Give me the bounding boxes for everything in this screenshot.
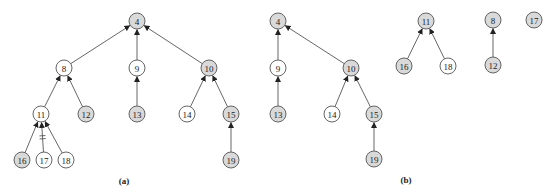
node-label: 4 (276, 17, 281, 27)
node-label: 12 (489, 61, 498, 71)
node-label: 15 (227, 110, 237, 120)
node-label: 14 (328, 110, 338, 120)
node-label: 8 (491, 16, 496, 26)
edge-8-to-4 (71, 26, 130, 64)
node-17: 17 (36, 152, 52, 168)
panel-label-a: (a) (119, 176, 130, 186)
node-17: 17 (526, 12, 542, 28)
node-label: 4 (135, 17, 140, 27)
node-16: 16 (396, 58, 412, 74)
node-13: 13 (270, 106, 286, 122)
node-10: 10 (343, 60, 359, 76)
node-13: 13 (129, 106, 145, 122)
node-18: 18 (440, 58, 456, 74)
node-8: 8 (56, 60, 72, 76)
edge-17-to-11 (42, 122, 44, 152)
node-4: 4 (270, 13, 286, 29)
edge-b16-to-b11 (408, 29, 423, 59)
node-11: 11 (33, 106, 49, 122)
node-label: 12 (82, 110, 91, 120)
panel-labels-layer: (a)(b) (119, 175, 412, 186)
node-label: 15 (370, 110, 380, 120)
node-4: 4 (129, 13, 145, 29)
edge-18-to-11 (45, 121, 62, 153)
edge-16-to-11 (25, 122, 38, 153)
node-label: 14 (183, 110, 193, 120)
node-12: 12 (78, 106, 94, 122)
node-15: 15 (366, 106, 382, 122)
node-label: 18 (444, 62, 454, 72)
node-label: 18 (62, 156, 72, 166)
node-label: 11 (37, 110, 46, 120)
node-8: 8 (485, 12, 501, 28)
node-label: 10 (347, 64, 357, 74)
node-label: 9 (276, 64, 281, 74)
edges-layer (25, 26, 493, 153)
edge-14-to-10 (190, 76, 205, 107)
node-14: 14 (324, 106, 340, 122)
edge-b18-to-b11 (430, 29, 445, 59)
node-label: 13 (274, 110, 284, 120)
node-18: 18 (58, 152, 74, 168)
edge-b14-to-b10 (335, 76, 348, 107)
node-label: 19 (227, 156, 237, 166)
panel-label-b: (b) (401, 175, 412, 185)
node-label: 10 (205, 64, 215, 74)
node-15: 15 (223, 106, 239, 122)
node-10: 10 (201, 60, 217, 76)
node-label: 16 (400, 62, 410, 72)
edge-b15-to-b10 (355, 76, 371, 107)
tree-diagram: 4891011121314151617181949101314151911161… (0, 0, 557, 195)
node-19: 19 (366, 151, 382, 167)
node-label: 19 (370, 155, 380, 165)
edge-15-to-10 (213, 76, 228, 107)
node-14: 14 (179, 106, 195, 122)
node-label: 16 (18, 156, 28, 166)
node-label: 8 (62, 64, 67, 74)
edge-11-to-8 (45, 76, 61, 107)
edge-10-to-4 (144, 26, 202, 64)
node-label: 17 (40, 156, 50, 166)
node-label: 11 (422, 17, 431, 27)
node-9: 9 (270, 60, 286, 76)
node-19: 19 (223, 152, 239, 168)
node-11: 11 (418, 13, 434, 29)
edge-b10-to-b4 (285, 26, 344, 64)
node-12: 12 (485, 57, 501, 73)
node-16: 16 (14, 152, 30, 168)
node-9: 9 (129, 60, 145, 76)
node-label: 17 (530, 16, 540, 26)
edge-12-to-8 (68, 76, 83, 107)
node-label: 13 (133, 110, 143, 120)
node-label: 9 (135, 64, 140, 74)
